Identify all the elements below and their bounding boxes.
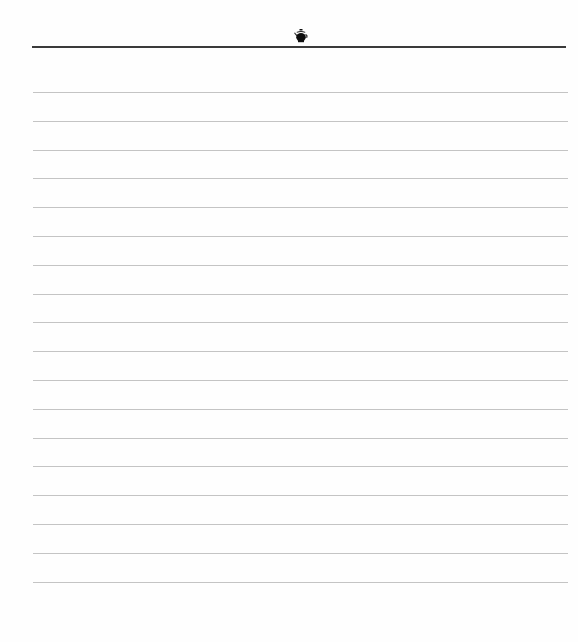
lined-page xyxy=(0,0,578,642)
ruled-line xyxy=(33,265,568,266)
ruled-line xyxy=(33,207,568,208)
ruled-line xyxy=(33,150,568,151)
ruled-line xyxy=(33,582,568,583)
ruled-line xyxy=(33,351,568,352)
ruled-line xyxy=(33,466,568,467)
ruled-line xyxy=(33,294,568,295)
ruled-line xyxy=(33,524,568,525)
ruled-line xyxy=(33,92,568,93)
ruled-line xyxy=(33,553,568,554)
ruled-line xyxy=(33,236,568,237)
ruled-line xyxy=(33,380,568,381)
ruled-lines-area xyxy=(0,0,578,642)
ruled-line xyxy=(33,178,568,179)
ruled-line xyxy=(33,121,568,122)
ruled-line xyxy=(33,438,568,439)
ruled-line xyxy=(33,322,568,323)
ruled-line xyxy=(33,409,568,410)
ruled-line xyxy=(33,495,568,496)
